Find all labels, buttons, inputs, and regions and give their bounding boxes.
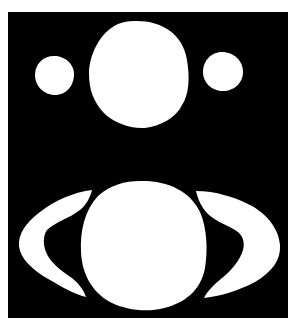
top-large-circle xyxy=(89,21,189,128)
silhouette-figure xyxy=(0,0,298,330)
bottom-large-circle xyxy=(81,181,207,310)
